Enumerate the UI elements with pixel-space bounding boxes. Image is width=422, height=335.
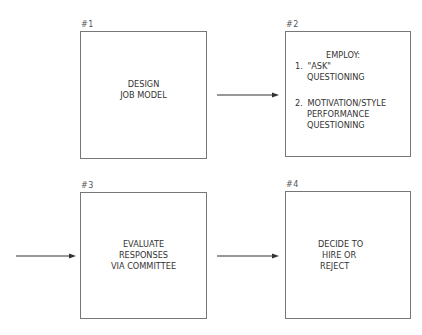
box-2-item-1: 1. "ASK" QUESTIONING	[295, 61, 365, 83]
box-2-item-2-line-3: QUESTIONING	[307, 120, 386, 131]
box-1-line-1: DESIGN	[80, 79, 207, 90]
box-2-item-1-num: 1.	[295, 61, 303, 71]
box-4-line-2: HIRE OR	[322, 250, 363, 261]
box-2-item-2: 2. MOTIVATION/STYLE PERFORMANCE QUESTION…	[295, 98, 386, 131]
box-3-label: EVALUATE RESPONSES VIA COMMITTEE	[80, 239, 207, 272]
box-2-item-2-line-2: PERFORMANCE	[307, 109, 386, 120]
box-2-item-2-line-1: MOTIVATION/STYLE	[307, 98, 386, 108]
arrow-right-icon	[217, 252, 279, 260]
box-2-item-2-num: 2.	[295, 98, 303, 108]
box-3-line-2: RESPONSES	[80, 250, 207, 261]
box-3-line-1: EVALUATE	[80, 239, 207, 250]
box-2-title: EMPLOY:	[326, 50, 360, 61]
box-1-line-2: JOB MODEL	[80, 90, 207, 101]
box-3-number: #3	[81, 181, 94, 190]
arrow-right-icon	[16, 252, 76, 260]
box-1-number: #1	[81, 20, 94, 29]
box-4-number: #4	[286, 180, 299, 189]
box-2-item-1-line-1: "ASK"	[307, 61, 331, 71]
box-4-line-3: REJECT	[320, 261, 363, 272]
box-1-label: DESIGN JOB MODEL	[80, 79, 207, 101]
box-4-label: DECIDE TO HIRE OR REJECT	[318, 239, 363, 272]
box-3-line-3: VIA COMMITTEE	[80, 261, 207, 272]
arrow-right-icon	[217, 91, 279, 99]
box-4-line-1: DECIDE TO	[318, 239, 363, 250]
box-2-item-1-line-2: QUESTIONING	[307, 72, 365, 83]
box-2-number: #2	[286, 20, 299, 29]
